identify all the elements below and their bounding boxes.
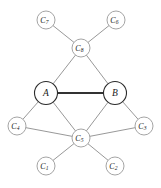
graph-edge-a-c4 — [23, 102, 38, 120]
graph-node-c2[interactable]: C2 — [106, 157, 124, 175]
graph-edge-c5-c2 — [88, 144, 108, 161]
graph-edge-c5-c1 — [53, 144, 74, 161]
graph-node-subscript-c7: 7 — [46, 19, 49, 25]
graph-node-subscript-c6: 6 — [116, 19, 119, 25]
graph-node-c5[interactable]: C5 — [72, 129, 90, 147]
graph-node-c3[interactable]: C3 — [135, 117, 153, 135]
graph-edge-c5-c4 — [26, 128, 72, 137]
graph-node-b[interactable]: B — [104, 82, 127, 105]
graph-node-label-a: A — [42, 88, 49, 98]
graph-node-subscript-c4: 4 — [17, 125, 20, 131]
graph-node-c8[interactable]: C8 — [72, 39, 90, 57]
graph-node-subscript-c1: 1 — [46, 165, 49, 171]
graph-edge-c8-c6 — [88, 26, 109, 43]
graph-edge-b-c3 — [123, 102, 138, 120]
graph-node-c4[interactable]: C4 — [8, 117, 26, 135]
graph-edge-c8-b — [86, 55, 108, 84]
graph-edge-c8-c7 — [53, 26, 74, 43]
graph-node-subscript-c5: 5 — [81, 137, 84, 143]
graph-node-c7[interactable]: C7 — [37, 11, 55, 29]
graph-edge-b-c5 — [86, 102, 108, 131]
graph-node-subscript-c8: 8 — [81, 47, 84, 53]
graph-node-a[interactable]: A — [35, 82, 58, 105]
graph-node-c1[interactable]: C1 — [37, 157, 55, 175]
graph-node-c6[interactable]: C6 — [107, 11, 125, 29]
graph-node-subscript-c2: 2 — [115, 165, 118, 171]
graph-node-subscript-c3: 3 — [143, 125, 147, 131]
graph-diagram-svg: ABC1C2C3C4C5C6C7C8 — [0, 0, 161, 188]
graph-edge-a-c5 — [53, 102, 75, 131]
graph-edge-c5-c3 — [90, 128, 135, 137]
graph-edge-c8-a — [53, 55, 75, 84]
graph-diagram-canvas: ABC1C2C3C4C5C6C7C8 — [0, 0, 161, 188]
graph-node-label-b: B — [112, 88, 118, 98]
